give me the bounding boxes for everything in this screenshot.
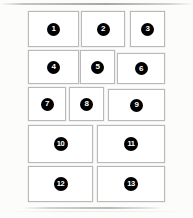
panel-badge-5: 5 — [91, 61, 104, 74]
panel-badge-3: 3 — [141, 23, 154, 36]
panel-badge-11: 11 — [124, 137, 138, 151]
bottom-scanline-artifact-secondary — [8, 211, 186, 212]
panel-8[interactable]: 8 — [69, 87, 104, 121]
panel-7[interactable]: 7 — [28, 87, 66, 121]
panel-4[interactable]: 4 — [28, 50, 79, 84]
panel-3[interactable]: 3 — [130, 11, 165, 47]
panel-5[interactable]: 5 — [80, 50, 115, 84]
panel-2[interactable]: 2 — [81, 11, 125, 47]
panel-grid-canvas: 1 2 3 4 5 6 7 8 9 10 11 12 13 — [0, 0, 193, 218]
panel-6[interactable]: 6 — [117, 53, 165, 84]
panel-badge-9: 9 — [130, 99, 143, 112]
panel-13[interactable]: 13 — [97, 166, 165, 202]
panel-badge-8: 8 — [80, 98, 93, 111]
top-scanline-artifact — [0, 3, 193, 5]
panel-1[interactable]: 1 — [28, 11, 79, 47]
panel-badge-10: 10 — [54, 137, 68, 151]
panel-badge-1: 1 — [47, 23, 60, 36]
bottom-scanline-artifact — [22, 207, 162, 209]
panel-badge-12: 12 — [54, 177, 68, 191]
panel-10[interactable]: 10 — [28, 125, 93, 163]
panel-badge-4: 4 — [47, 61, 60, 74]
panel-badge-7: 7 — [41, 98, 54, 111]
panel-badge-13: 13 — [124, 177, 138, 191]
panel-12[interactable]: 12 — [28, 166, 93, 202]
panel-badge-2: 2 — [97, 23, 110, 36]
panel-badge-6: 6 — [135, 62, 148, 75]
panel-9[interactable]: 9 — [108, 89, 165, 121]
panel-11[interactable]: 11 — [97, 125, 165, 163]
